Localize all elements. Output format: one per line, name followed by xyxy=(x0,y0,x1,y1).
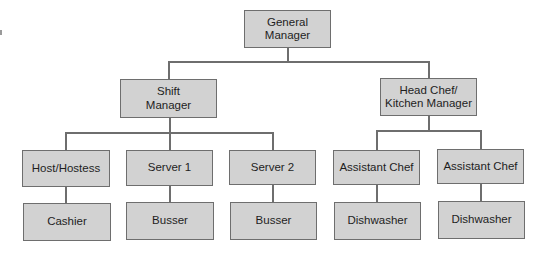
connector-line xyxy=(169,118,171,132)
connector-line xyxy=(168,61,170,79)
node-busser-2: Busser xyxy=(230,202,317,240)
node-dishwasher-2: Dishwasher xyxy=(438,201,525,239)
node-assistant-chef-2: Assistant Chef xyxy=(437,149,524,184)
connector-line xyxy=(480,130,482,149)
connector-line xyxy=(376,130,378,150)
node-host-hostess: Host/Hostess xyxy=(22,150,110,187)
connector-line xyxy=(272,185,274,202)
connector-line xyxy=(65,187,67,203)
connector-line xyxy=(169,132,171,150)
node-assistant-chef-1: Assistant Chef xyxy=(333,150,420,185)
node-dishwasher-1: Dishwasher xyxy=(334,202,421,240)
edge-mark xyxy=(0,30,2,35)
connector-line xyxy=(428,116,430,131)
node-busser-1: Busser xyxy=(126,202,214,240)
connector-line xyxy=(65,132,67,150)
node-cashier: Cashier xyxy=(23,203,111,241)
connector-line xyxy=(428,61,430,78)
org-chart: General Manager Shift Manager Head Chef/… xyxy=(0,0,542,256)
connector-line xyxy=(169,186,171,202)
connector-line xyxy=(287,48,289,62)
connector-line xyxy=(168,61,429,63)
node-shift-manager: Shift Manager xyxy=(120,79,217,118)
connector-line xyxy=(376,185,378,202)
node-server-2: Server 2 xyxy=(229,150,316,185)
node-general-manager: General Manager xyxy=(244,10,331,48)
node-head-chef: Head Chef/ Kitchen Manager xyxy=(380,78,477,116)
connector-line xyxy=(480,184,482,201)
connector-line xyxy=(272,132,274,150)
node-server-1: Server 1 xyxy=(126,150,213,186)
connector-line xyxy=(376,130,481,132)
